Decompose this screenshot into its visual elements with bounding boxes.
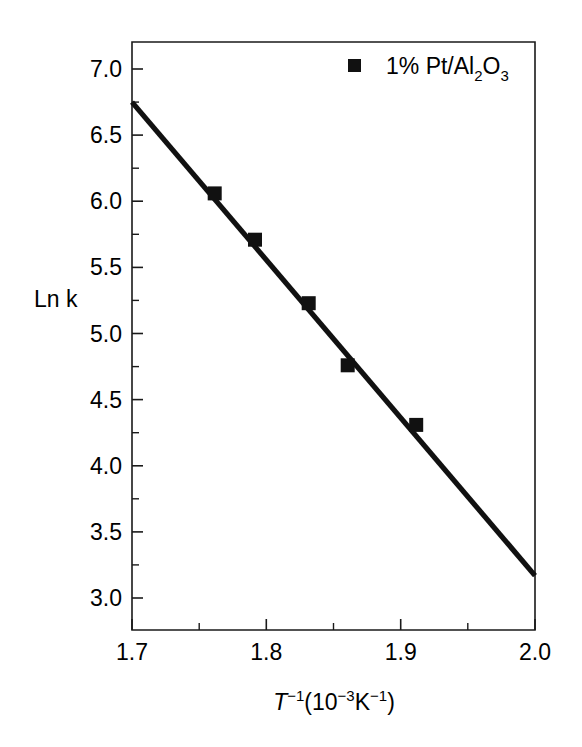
- legend: 1% Pt/Al2O3: [348, 53, 509, 84]
- y-tick-label: 4.0: [90, 453, 122, 479]
- data-point-marker: [341, 358, 355, 372]
- data-point-marker: [409, 418, 423, 432]
- legend-entry-label: 1% Pt/Al2O3: [386, 53, 509, 84]
- y-tick-label: 7.0: [90, 56, 122, 82]
- y-tick-label: 6.0: [90, 188, 122, 214]
- data-series-markers: [208, 186, 424, 432]
- x-axis-title-mid: (10: [304, 689, 337, 715]
- y-tick-label: 6.5: [90, 122, 122, 148]
- x-axis-tick-labels: 1.7 1.8 1.9 2.0: [116, 639, 551, 665]
- x-axis-title-unit: K: [355, 689, 371, 715]
- chart-figure: 3.0 3.5 4.0 4.5 5.0 5.5 6.0 6.5 7.0 1.7 …: [0, 0, 582, 747]
- x-tick-label: 1.9: [385, 639, 417, 665]
- y-axis-major-ticks: [132, 69, 143, 598]
- data-point-marker: [208, 186, 222, 200]
- data-point-marker: [248, 233, 262, 247]
- y-tick-label: 5.0: [90, 321, 122, 347]
- x-axis-title: T−1(10−3K−1): [273, 687, 395, 715]
- legend-label-part1: 1% Pt/Al: [386, 53, 474, 79]
- x-axis-title-close: ): [387, 689, 395, 715]
- fit-line: [132, 102, 535, 575]
- arrhenius-plot: 3.0 3.5 4.0 4.5 5.0 5.5 6.0 6.5 7.0 1.7 …: [0, 0, 582, 747]
- legend-label-sub2: 3: [500, 67, 508, 84]
- data-point-marker: [302, 296, 316, 310]
- x-tick-label: 2.0: [519, 639, 551, 665]
- x-axis-title-exp2: −3: [338, 687, 355, 704]
- x-tick-label: 1.7: [116, 639, 148, 665]
- y-axis-title: Ln k: [34, 286, 78, 312]
- y-axis-tick-labels: 3.0 3.5 4.0 4.5 5.0 5.5 6.0 6.5 7.0: [90, 56, 122, 611]
- y-tick-label: 3.5: [90, 519, 122, 545]
- legend-label-sub1: 2: [474, 67, 482, 84]
- legend-marker-square-icon: [348, 59, 361, 72]
- y-tick-label: 3.0: [90, 585, 122, 611]
- legend-label-part2: O: [483, 53, 501, 79]
- y-tick-label: 5.5: [90, 254, 122, 280]
- y-tick-label: 4.5: [90, 387, 122, 413]
- x-axis-title-exp3: −1: [370, 687, 387, 704]
- x-axis-minor-ticks: [199, 623, 468, 630]
- x-axis-title-exp1: −1: [287, 687, 304, 704]
- x-tick-label: 1.8: [250, 639, 282, 665]
